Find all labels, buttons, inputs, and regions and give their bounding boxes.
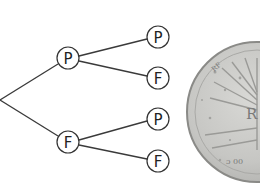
node-label: F xyxy=(154,70,163,88)
coin-initial: R xyxy=(246,105,258,123)
tree-diagram: P F P F P F xyxy=(0,0,260,191)
node-label: P xyxy=(153,29,162,47)
node-level2-FP: P xyxy=(147,108,169,130)
node-level2-FF: F xyxy=(147,150,169,172)
edge-root-F xyxy=(0,100,58,136)
coin-image: R ɔ 00 RF xyxy=(187,42,260,182)
edge-F-F xyxy=(79,145,147,159)
node-label: P xyxy=(63,50,72,68)
node-level2-PP: P xyxy=(147,26,169,48)
edge-P-F xyxy=(79,61,147,76)
coin-rim-text: ɔ 00 xyxy=(226,157,243,166)
probability-tree-figure: P F P F P F xyxy=(0,0,260,191)
node-label: P xyxy=(153,111,162,129)
edge-F-P xyxy=(79,121,147,140)
node-label: F xyxy=(154,153,163,171)
node-level1-P: P xyxy=(57,47,79,69)
node-level1-F: F xyxy=(57,131,79,153)
node-level2-PF: F xyxy=(147,67,169,89)
edge-P-P xyxy=(79,39,147,56)
edge-root-P xyxy=(0,64,58,100)
node-label: F xyxy=(64,134,73,152)
